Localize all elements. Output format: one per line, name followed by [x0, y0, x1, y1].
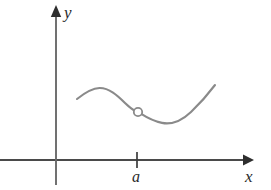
- x-axis-arrow-icon: [243, 155, 254, 166]
- math-figure: y x a: [0, 0, 271, 190]
- x-tick-label-a: a: [132, 168, 140, 185]
- curve-left-branch: [77, 88, 136, 112]
- y-axis-arrow-icon: [51, 5, 61, 17]
- x-axis-label: x: [244, 167, 253, 186]
- open-circle-discontinuity-marker: [134, 108, 142, 116]
- curve-right-branch: [140, 85, 215, 123]
- coordinate-plane-graphic: y x a: [0, 0, 271, 190]
- y-axis-label: y: [62, 3, 72, 22]
